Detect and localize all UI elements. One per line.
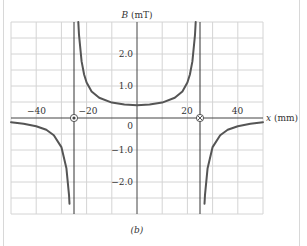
x-tick-label: 20 <box>181 106 193 116</box>
y-tick-label: 1.0 <box>119 81 134 91</box>
wire-out-of-page-icon <box>70 114 77 121</box>
x-tick-label: 40 <box>232 106 244 116</box>
x-tick-label: −40 <box>27 106 46 116</box>
figure-caption: (b) <box>131 225 144 235</box>
wire-into-page-icon <box>196 114 203 121</box>
y-tick-label: −1.0 <box>111 145 133 155</box>
x-tick-label: −20 <box>79 106 98 116</box>
y-tick-label: −2.0 <box>111 177 133 187</box>
y-axis-label: B (mT) <box>120 10 152 20</box>
x-axis-label: x (mm) <box>266 113 298 123</box>
y-tick-label: 2.0 <box>119 49 134 59</box>
y-tick-label: 0 <box>127 121 133 131</box>
